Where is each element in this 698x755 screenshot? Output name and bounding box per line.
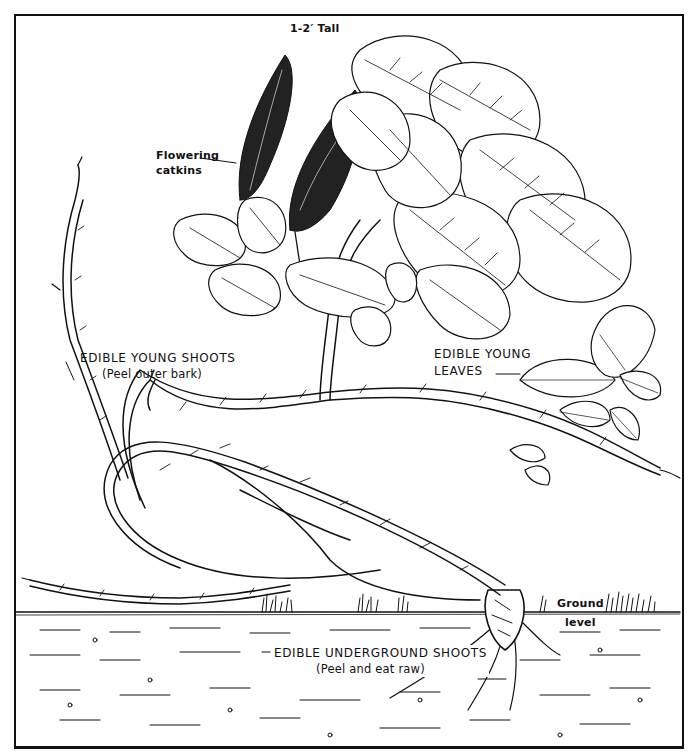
flowering-catkins-line1: Flowering [156, 148, 219, 163]
leaves-young [510, 306, 661, 485]
ground-level-line1: Ground [557, 594, 604, 613]
height-label: 1-2′ Tall [290, 22, 339, 36]
edible-young-shoots-label: EDIBLE YOUNG SHOOTS (Peel outer bark) [80, 350, 236, 382]
edible-young-shoots-line1: EDIBLE YOUNG SHOOTS [80, 350, 236, 366]
ground-level-line2: level [557, 613, 604, 632]
flowering-catkins-label: Flowering catkins [156, 148, 219, 178]
edible-underground-shoots-line2: (Peel and eat raw) [274, 661, 487, 677]
edible-young-leaves-label: EDIBLE YOUNG LEAVES [434, 346, 531, 380]
edible-young-leaves-line1: EDIBLE YOUNG [434, 346, 531, 363]
edible-young-shoots-line2: (Peel outer bark) [80, 366, 236, 382]
flowering-catkins-line2: catkins [156, 163, 219, 178]
ground-level-label: Ground level [557, 594, 604, 632]
edible-young-leaves-line2: LEAVES [434, 363, 531, 380]
edible-underground-shoots-label: EDIBLE UNDERGROUND SHOOTS (Peel and eat … [272, 645, 489, 677]
edible-underground-shoots-line1: EDIBLE UNDERGROUND SHOOTS [274, 645, 487, 661]
